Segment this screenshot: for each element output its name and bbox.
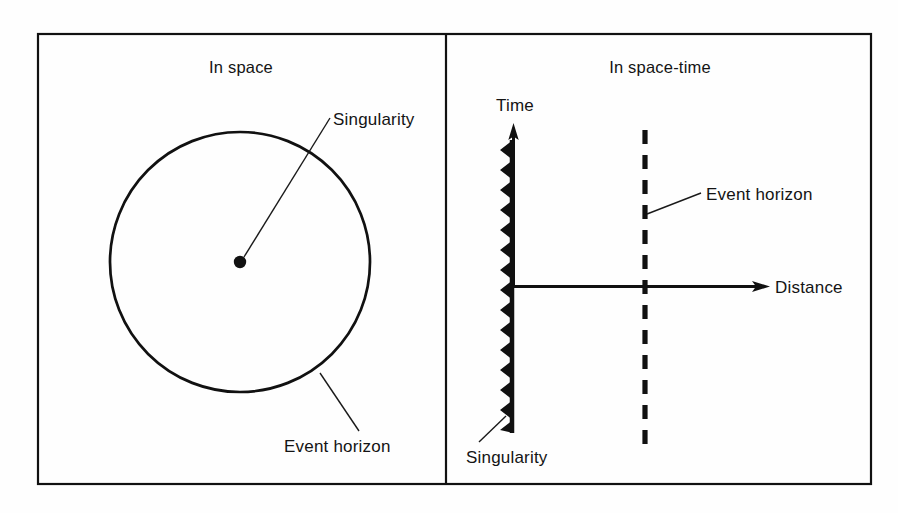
- event-horizon-leader-line-spacetime: [647, 193, 701, 214]
- figure-container: In space Singularity Event horizon In sp…: [0, 0, 898, 513]
- event-horizon-label-space: Event horizon: [284, 437, 391, 456]
- singularity-teeth: [500, 140, 513, 433]
- panel-title-in-space: In space: [209, 58, 273, 76]
- panel-in-space: In space Singularity Event horizon: [110, 58, 415, 456]
- panel-in-space-time: In space-time Time Singularity Distance: [466, 58, 843, 467]
- time-axis-label: Time: [496, 96, 534, 115]
- black-hole-diagram: In space Singularity Event horizon In sp…: [0, 0, 898, 513]
- figure-border: [38, 34, 871, 484]
- event-horizon-leader-line-space: [320, 373, 359, 431]
- event-horizon-label-spacetime: Event horizon: [706, 185, 813, 204]
- distance-axis-label: Distance: [775, 278, 843, 297]
- singularity-label-space: Singularity: [333, 110, 415, 129]
- panel-title-in-space-time: In space-time: [609, 58, 711, 76]
- singularity-leader-line: [244, 118, 330, 257]
- singularity-point: [234, 256, 246, 268]
- singularity-label-spacetime: Singularity: [466, 448, 548, 467]
- singularity-sawtooth: [500, 140, 513, 433]
